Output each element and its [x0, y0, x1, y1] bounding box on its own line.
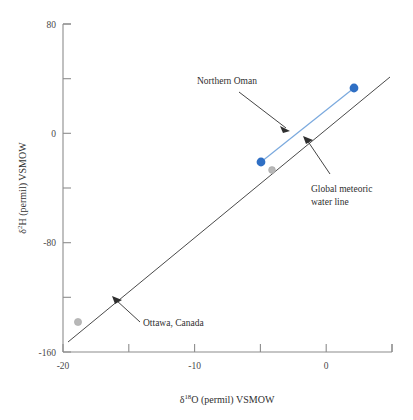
- data-point-oman-upper: [350, 84, 359, 93]
- annotation-northern-oman-label: Northern Oman: [197, 76, 257, 86]
- y-axis-title: δ2H (permil) VSMOW: [16, 142, 29, 234]
- y-axis-ticks: [63, 24, 71, 352]
- meteoric-water-line-chart: 80 0 -80 -160 -20 -10 0: [0, 0, 413, 420]
- data-point-ottawa: [74, 318, 81, 325]
- annotation-northern-oman: Northern Oman: [197, 76, 290, 133]
- svg-text:δ2H (permil) VSMOW: δ2H (permil) VSMOW: [16, 142, 29, 234]
- data-point-oman-lower: [257, 158, 266, 167]
- svg-text:δ18O (permil) VSMOW: δ18O (permil) VSMOW: [180, 393, 275, 406]
- x-tick-label-minus20: -20: [57, 361, 70, 371]
- annotation-gmwl-label-line1: Global meteoric: [311, 184, 372, 194]
- x-tick-label-minus10: -10: [188, 361, 201, 371]
- annotation-gmwl-label-line2: water line: [311, 197, 349, 207]
- annotation-northern-oman-leader: [239, 92, 286, 128]
- y-tick-label-minus80: -80: [43, 238, 56, 248]
- x-axis-ticks: [63, 344, 392, 352]
- chart-canvas: 80 0 -80 -160 -20 -10 0: [0, 0, 413, 420]
- y-tick-label-0: 0: [51, 129, 56, 139]
- x-tick-label-0: 0: [324, 361, 329, 371]
- reference-points-series: [74, 167, 275, 326]
- x-axis-title: δ18O (permil) VSMOW: [180, 393, 275, 406]
- data-point-gray-upper: [269, 167, 276, 174]
- northern-oman-line: [261, 88, 354, 162]
- y-axis-title-rest: H (permil) VSMOW: [17, 142, 29, 226]
- northern-oman-series: [257, 84, 359, 167]
- annotation-ottawa-arrowhead: [112, 296, 122, 304]
- y-tick-label-minus160: -160: [39, 348, 57, 358]
- annotation-global-meteoric-water-line: Global meteoric water line: [303, 136, 372, 207]
- y-axis-tick-labels: 80 0 -80 -160: [39, 20, 57, 358]
- annotation-gmwl-arrowhead: [303, 136, 313, 144]
- x-axis-tick-labels: -20 -10 0: [57, 361, 329, 371]
- annotation-gmwl-leader: [307, 140, 330, 174]
- annotation-ottawa-canada: Ottawa, Canada: [112, 296, 204, 328]
- annotation-ottawa-label: Ottawa, Canada: [143, 318, 204, 328]
- y-tick-label-80: 80: [47, 20, 57, 30]
- x-axis-title-rest: O (permil) VSMOW: [191, 394, 275, 406]
- annotation-ottawa-leader: [116, 300, 140, 322]
